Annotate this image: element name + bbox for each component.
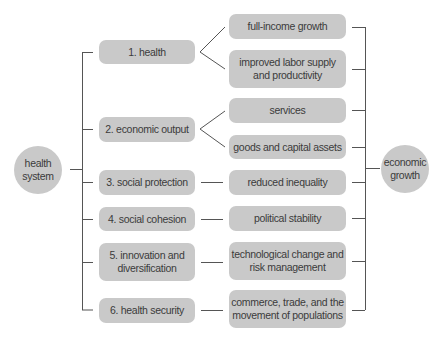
outcome-label: full-income growth (248, 20, 328, 33)
node-label: health (22, 157, 53, 170)
channel-label: diversification (110, 262, 185, 275)
channel-economic-output: 2. economic output (99, 117, 195, 142)
outcome-label: commerce, trade, and the (231, 296, 343, 309)
outcome-label: goods and capital assets (233, 141, 341, 154)
outcome-full-income-growth: full-income growth (229, 14, 346, 39)
outcome-label: and productivity (239, 69, 335, 82)
channel-label: 5. innovation and (110, 249, 185, 262)
channel-label: 3. social protection (106, 176, 188, 189)
channel-social-cohesion: 4. social cohesion (99, 207, 195, 231)
node-economic-growth: economic growth (381, 145, 429, 193)
outcome-technological-change: technological change and risk management (229, 242, 346, 280)
outcome-labor-supply: improved labor supply and productivity (229, 50, 346, 88)
channel-label: 4. social cohesion (108, 213, 186, 226)
outcome-label: movement of populations (231, 309, 343, 322)
channel-label: 1. health (128, 46, 166, 59)
outcome-label: services (269, 104, 305, 117)
outcome-reduced-inequality: reduced inequality (229, 170, 346, 195)
outcome-label: improved labor supply (239, 56, 335, 69)
outcome-political-stability: political stability (229, 206, 346, 231)
outcome-label: reduced inequality (248, 176, 328, 189)
outcome-commerce-trade: commerce, trade, and the movement of pop… (229, 290, 346, 328)
node-label: economic (384, 156, 427, 169)
channel-social-protection: 3. social protection (99, 170, 195, 195)
channel-health-security: 6. health security (99, 298, 195, 323)
outcome-label: risk management (232, 261, 344, 274)
outcome-services: services (229, 98, 346, 123)
outcome-goods-capital: goods and capital assets (229, 135, 346, 159)
outcome-label: political stability (254, 212, 321, 225)
channel-health: 1. health (99, 40, 195, 64)
node-label: system (22, 170, 53, 183)
channel-label: 2. economic output (105, 123, 188, 136)
channel-label: 6. health security (110, 304, 184, 317)
connector-lines (0, 0, 446, 343)
node-health-system: health system (14, 146, 62, 194)
outcome-label: technological change and (232, 248, 344, 261)
node-label: growth (384, 169, 427, 182)
channel-innovation: 5. innovation and diversification (99, 243, 195, 281)
